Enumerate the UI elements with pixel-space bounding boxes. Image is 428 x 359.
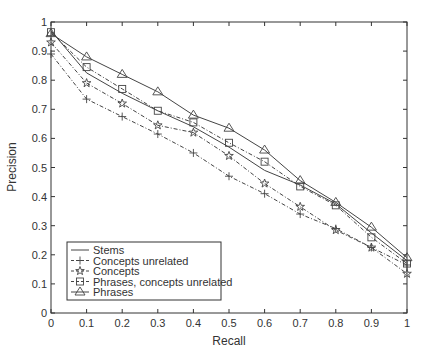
legend: StemsConcepts unrelatedConceptsPhrases, … [67,242,232,300]
plus-marker-icon [189,149,197,157]
y-tick-label: 1 [41,16,47,28]
y-tick-label: 0.1 [32,278,47,290]
x-tick-label: 0.5 [221,317,236,329]
star-marker-icon [82,79,91,87]
series-lines [46,29,412,278]
series-phrases [46,29,412,261]
y-tick-label: 0.8 [32,74,47,86]
y-tick-label: 0.5 [32,162,47,174]
y-tick-label: 0.2 [32,249,47,261]
x-tick-label: 0.9 [364,317,379,329]
series-concepts [47,38,412,278]
y-tick-label: 0.7 [32,103,47,115]
square-marker-icon [190,119,197,126]
plus-marker-icon [118,113,126,121]
plus-marker-icon [261,190,269,198]
x-tick-label: 0.7 [293,317,308,329]
x-tick-label: 0.8 [328,317,343,329]
plus-marker-icon [225,172,233,180]
y-axis-label: Precision [5,142,19,191]
y-tick-label: 0 [41,307,47,319]
series-concepts-unrelated [47,50,411,269]
triangle-marker-icon [260,145,270,153]
y-tick-label: 0.6 [32,132,47,144]
precision-recall-chart: 00.10.20.30.40.50.60.70.80.9100.10.20.30… [0,0,428,359]
x-tick-label: 0 [48,317,54,329]
star-marker-icon [118,99,127,107]
x-axis-label: Recall [212,334,245,348]
x-tick-label: 0.4 [186,317,201,329]
x-tick-label: 0.1 [79,317,94,329]
x-tick-label: 0.2 [115,317,130,329]
y-tick-label: 0.9 [32,45,47,57]
plus-marker-icon [83,95,91,103]
triangle-marker-icon [366,222,376,230]
legend-label: Phrases [93,286,134,298]
plus-marker-icon [154,130,162,138]
x-tick-label: 1 [404,317,410,329]
y-tick-label: 0.4 [32,191,47,203]
y-tick-label: 0.3 [32,220,47,232]
plus-marker-icon [403,261,411,269]
plus-marker-icon [296,210,304,218]
x-tick-label: 0.6 [257,317,272,329]
x-tick-label: 0.3 [150,317,165,329]
legend-box [67,242,221,300]
